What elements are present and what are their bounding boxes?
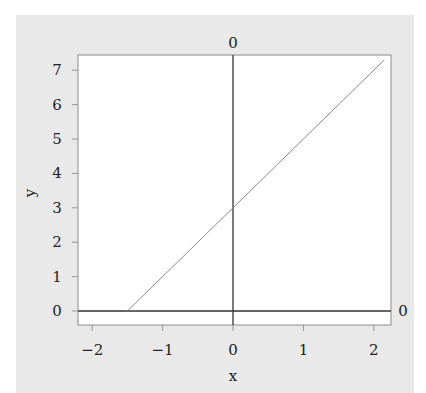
x-tick-label: 2 [369, 341, 379, 359]
vertical-reference-label: 0 [228, 34, 238, 52]
x-axis-label: x [229, 367, 238, 385]
y-tick-label: 4 [52, 164, 62, 182]
y-tick-label: 7 [52, 61, 62, 79]
line-chart: 01234567 −2−1012 0 0 x y [0, 0, 426, 393]
y-tick-label: 2 [52, 233, 62, 251]
y-tick-label: 6 [52, 96, 62, 114]
x-tick-label: 1 [299, 341, 309, 359]
y-axis: 01234567 [52, 61, 78, 320]
x-axis: −2−1012 [81, 325, 378, 359]
y-tick-label: 0 [52, 302, 62, 320]
horizontal-reference-label: 0 [398, 302, 408, 320]
x-tick-label: −2 [81, 341, 103, 359]
y-axis-label: y [21, 188, 39, 198]
plot-area [78, 55, 391, 325]
x-tick-label: 0 [228, 341, 238, 359]
y-tick-label: 1 [52, 268, 62, 286]
x-tick-label: −1 [152, 341, 174, 359]
y-tick-label: 5 [52, 130, 62, 148]
y-tick-label: 3 [52, 199, 62, 217]
